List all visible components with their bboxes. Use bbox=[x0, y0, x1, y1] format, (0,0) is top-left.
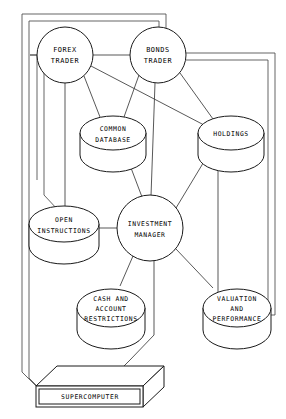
node-open-instructions[interactable]: OPEN INSTRUCTIONS bbox=[29, 206, 99, 264]
cash-account-restrictions-label-line3: RESTRICTIONS bbox=[84, 315, 137, 323]
common-database-label-line1: COMMON bbox=[100, 125, 127, 133]
route-bonds-trader-to-valuation-performance bbox=[186, 53, 275, 315]
valuation-performance-label-line1: VALUATION bbox=[217, 295, 257, 303]
node-holdings[interactable]: HOLDINGS bbox=[198, 116, 264, 172]
forex-trader-label-line2: TRADER bbox=[51, 57, 80, 65]
valuation-performance-label-line2: AND bbox=[230, 305, 243, 313]
open-instructions-label-line1: OPEN bbox=[55, 216, 73, 224]
node-bonds-trader[interactable]: BONDS TRADER bbox=[130, 27, 186, 83]
node-supercomputer[interactable]: SUPERCOMPUTER bbox=[36, 366, 164, 407]
node-common-database[interactable]: COMMON DATABASE bbox=[80, 116, 146, 172]
cash-account-restrictions-label-line1: CASH AND bbox=[93, 295, 129, 303]
node-valuation-performance[interactable]: VALUATION AND PERFORMANCE bbox=[203, 289, 271, 349]
node-cash-account-restrictions[interactable]: CASH AND ACCOUNT RESTRICTIONS bbox=[77, 289, 145, 349]
bonds-trader-circle bbox=[130, 27, 186, 83]
edge-investment-manager-cash-account-restrictions bbox=[120, 256, 133, 286]
route-bonds-trader-to-valuation-inner bbox=[186, 60, 268, 308]
open-instructions-top bbox=[29, 206, 99, 242]
common-database-label-line2: DATABASE bbox=[95, 136, 131, 144]
common-database-top bbox=[80, 116, 146, 150]
edge-bonds-trader-common-database bbox=[124, 75, 139, 117]
edge-bonds-trader-investment-manager bbox=[151, 83, 155, 196]
forex-trader-circle bbox=[37, 27, 93, 83]
valuation-performance-label-line3: PERFORMANCE bbox=[213, 315, 262, 323]
cash-account-restrictions-label-line2: ACCOUNT bbox=[95, 305, 126, 313]
bonds-trader-label-line2: TRADER bbox=[144, 57, 173, 65]
investment-manager-circle bbox=[117, 195, 183, 261]
node-investment-manager[interactable]: INVESTMENT MANAGER bbox=[117, 195, 183, 261]
edge-forex-trader-common-database bbox=[84, 76, 100, 117]
supercomputer-top-face bbox=[36, 366, 164, 386]
node-forex-trader[interactable]: FOREX TRADER bbox=[37, 27, 93, 83]
holdings-label-line1: HOLDINGS bbox=[213, 130, 249, 138]
bonds-trader-label-line1: BONDS bbox=[146, 46, 170, 54]
edge-bonds-trader-holdings bbox=[180, 73, 213, 119]
investment-manager-label-line1: INVESTMENT bbox=[128, 220, 172, 228]
open-instructions-label-line2: INSTRUCTIONS bbox=[37, 227, 90, 235]
investment-manager-label-line2: MANAGER bbox=[134, 231, 165, 239]
edge-investment-manager-valuation-performance bbox=[176, 249, 213, 288]
network-diagram: FOREX TRADER BONDS TRADER COMMON DATABAS… bbox=[0, 0, 286, 419]
supercomputer-label: SUPERCOMPUTER bbox=[61, 393, 119, 401]
forex-trader-label-line1: FOREX bbox=[53, 46, 77, 54]
